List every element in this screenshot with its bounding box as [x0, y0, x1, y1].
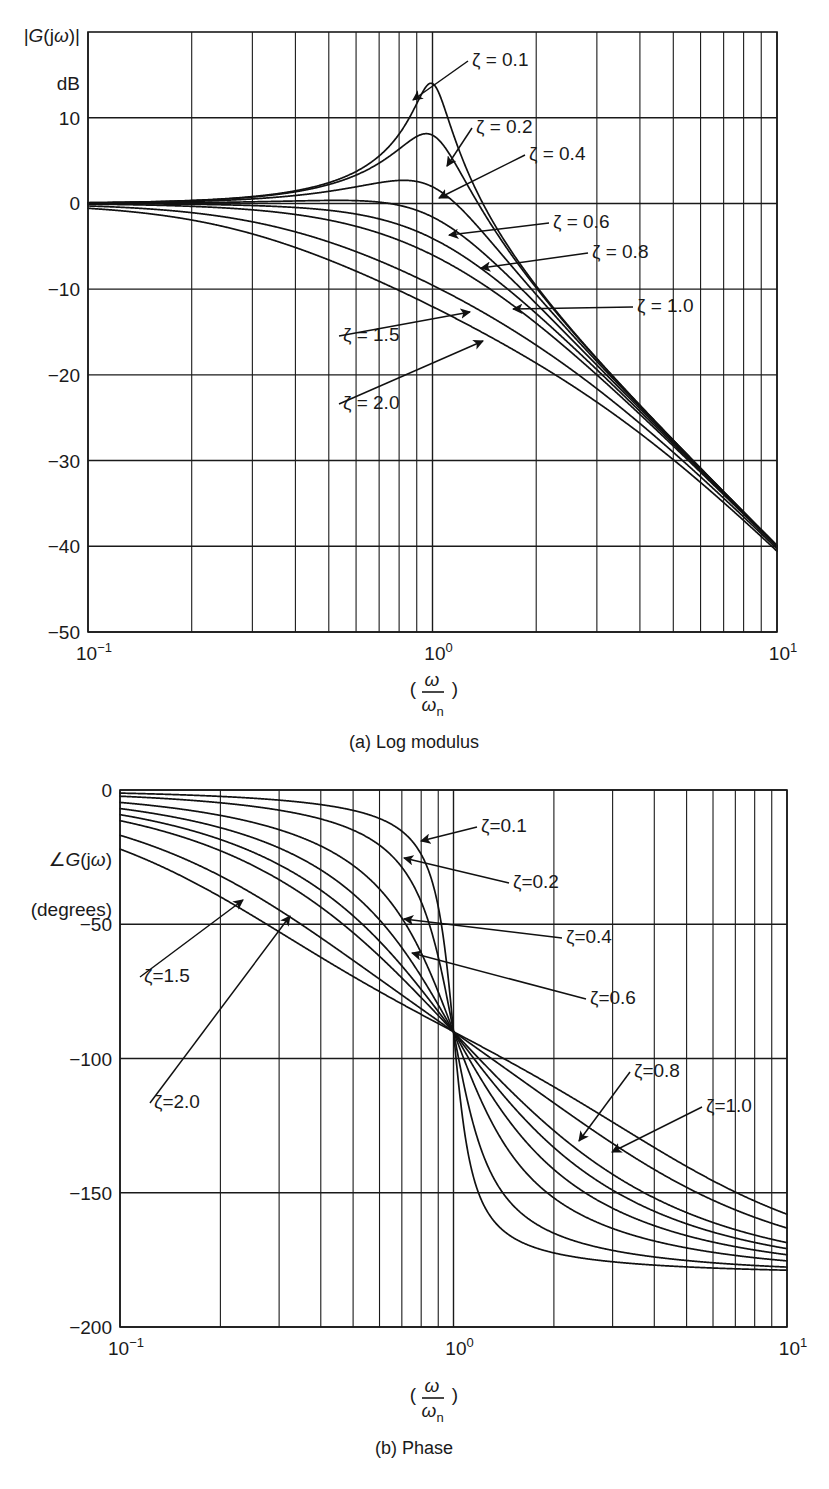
zeta-label-7: ζ=2.0	[154, 1091, 200, 1112]
zeta-leader-line-1	[447, 128, 472, 166]
omega-numerator-a: ω	[425, 669, 440, 690]
y-tick-1: 0	[69, 193, 80, 214]
x-tick-1: 100	[424, 640, 452, 664]
y-tick-2: −100	[69, 1049, 112, 1070]
zeta-label-0: ζ = 0.1	[472, 49, 528, 70]
zeta-label-3: ζ=0.6	[590, 987, 636, 1008]
y-axis-unit-db: dB	[57, 73, 80, 94]
x-tick-1: 100	[445, 1335, 473, 1359]
zeta-label-4: ζ=0.8	[634, 1060, 680, 1081]
y-tick-4: −30	[48, 451, 80, 472]
omega-subscript-n-a: n	[436, 704, 443, 719]
x-tick-labels-log-modulus: 10−1100101	[76, 640, 797, 664]
bode-figure: 100−10−20−30−40−50 10−1100101 ζ = 0.1ζ =…	[0, 0, 829, 1489]
zeta-leader-line-0	[413, 61, 468, 100]
grid-log-modulus	[88, 32, 777, 632]
panel-phase: 0−50−100−150−200 10−1100101 ζ=0.1ζ=0.2ζ=…	[31, 780, 808, 1458]
x-tick-2: 101	[779, 1335, 807, 1359]
omega-denominator-a: ω	[422, 694, 437, 715]
x-tick-2: 101	[769, 640, 797, 664]
y-tick-3: −20	[48, 365, 80, 386]
x-tick-0: 10−1	[108, 1335, 144, 1359]
panel-log-modulus: 100−10−20−30−40−50 10−1100101 ζ = 0.1ζ =…	[24, 25, 798, 752]
zeta-label-2: ζ=0.4	[566, 926, 612, 947]
zeta-label-5: ζ = 1.0	[637, 295, 693, 316]
zeta-leader-line-7	[339, 341, 483, 404]
caption-log-modulus: (a) Log modulus	[349, 732, 479, 752]
zeta-leader-line-4	[481, 253, 588, 268]
zeta-annotations-phase: ζ=0.1ζ=0.2ζ=0.4ζ=0.6ζ=0.8ζ=1.0ζ=1.5ζ=2.0	[140, 815, 752, 1152]
x-tick-labels-phase: 10−1100101	[108, 1335, 807, 1359]
zeta-label-1: ζ = 0.2	[476, 116, 532, 137]
zeta-label-1: ζ=0.2	[513, 871, 559, 892]
y-axis-unit-degrees: (degrees)	[31, 899, 112, 920]
y-tick-0: 0	[101, 780, 112, 801]
zeta-label-2: ζ = 0.4	[529, 143, 586, 164]
zeta-leader-line-2	[404, 919, 562, 938]
zeta-label-5: ζ=1.0	[706, 1095, 752, 1116]
y-tick-4: −200	[69, 1317, 112, 1338]
zeta-leader-line-1	[404, 858, 509, 883]
y-tick-6: −50	[48, 622, 80, 643]
zeta-leader-line-6	[140, 900, 243, 977]
zeta-label-4: ζ = 0.8	[592, 241, 648, 262]
y-tick-5: −40	[48, 536, 80, 557]
bode-figure-canvas: 100−10−20−30−40−50 10−1100101 ζ = 0.1ζ =…	[0, 0, 829, 1489]
x-axis-label-log-modulus: ( ω ω n )	[410, 669, 458, 719]
y-tick-0: 10	[59, 108, 80, 129]
paren-right-a: )	[452, 678, 458, 699]
y-tick-labels-log-modulus: 100−10−20−30−40−50	[48, 108, 80, 643]
x-axis-label-phase: ( ω ω n )	[410, 1375, 458, 1425]
y-tick-2: −10	[48, 279, 80, 300]
paren-left-a: (	[410, 678, 417, 699]
omega-denominator-b: ω	[422, 1400, 437, 1421]
paren-right-b: )	[452, 1384, 458, 1405]
paren-left-b: (	[410, 1384, 417, 1405]
zeta-leader-line-2	[439, 155, 525, 198]
y-axis-label-magnitude: |G(jω)|	[24, 25, 80, 46]
zeta-leader-line-0	[421, 827, 477, 841]
zeta-label-3: ζ = 0.6	[553, 211, 609, 232]
zeta-leader-line-5	[513, 307, 633, 309]
omega-subscript-n-b: n	[436, 1410, 443, 1425]
caption-phase: (b) Phase	[375, 1438, 453, 1458]
y-axis-label-phase: ∠G(jω)	[48, 849, 112, 870]
zeta-label-7: ζ = 2.0	[343, 392, 399, 413]
omega-numerator-b: ω	[425, 1375, 440, 1396]
x-tick-0: 10−1	[76, 640, 112, 664]
zeta-label-0: ζ=0.1	[481, 815, 527, 836]
y-tick-3: −150	[69, 1183, 112, 1204]
